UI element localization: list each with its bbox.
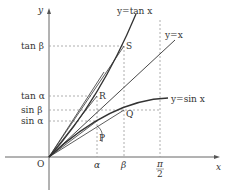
sin-alpha-label: sin α — [21, 116, 43, 126]
trig-comparison-diagram: y x O y=tan x y=x y=sin x tan β tan α si… — [0, 0, 226, 196]
point-S-label: S — [126, 41, 132, 51]
y-axis-arrow-icon — [47, 8, 51, 14]
sin-curve-label: y=sin x — [170, 94, 205, 104]
pi-label: π — [156, 159, 164, 169]
point-P-label: P — [99, 133, 105, 143]
ray-tan-alpha — [49, 72, 104, 157]
alpha-tick-label: α — [94, 160, 100, 170]
sin-beta-label: sin β — [21, 105, 42, 115]
tan-beta-label: tan β — [21, 41, 44, 51]
beta-tick-label: β — [120, 160, 126, 170]
ray-OS — [49, 46, 124, 157]
x-axis-label: x — [216, 162, 221, 172]
two-label: 2 — [157, 169, 163, 179]
origin-label: O — [37, 159, 44, 169]
tan-alpha-label: tan α — [21, 91, 45, 101]
curves — [49, 14, 175, 157]
x-axis-arrow-icon — [214, 155, 220, 159]
point-R-label: R — [99, 91, 106, 101]
identity-line-label: y=x — [164, 30, 183, 40]
labels: y x O y=tan x y=x y=sin x tan β tan α si… — [21, 5, 221, 179]
tan-curve — [49, 14, 136, 157]
point-Q-label: Q — [126, 109, 133, 119]
y-axis-label: y — [37, 5, 44, 15]
tan-curve-label: y=tan x — [116, 6, 152, 16]
sin-curve — [49, 98, 168, 157]
ray-OQ — [49, 110, 124, 157]
